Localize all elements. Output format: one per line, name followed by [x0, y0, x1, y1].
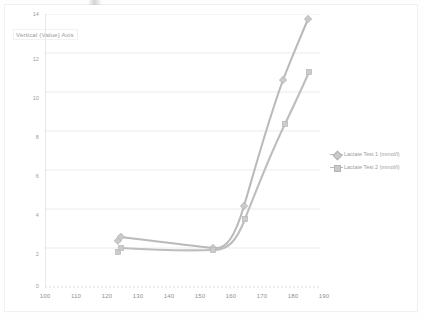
- y-tick-label: 8: [23, 134, 39, 140]
- y-tick-label: 10: [23, 95, 39, 101]
- legend-item-lactate-test-2[interactable]: Lactate Test 2 (mmol/l): [330, 161, 422, 174]
- plot-svg: [45, 14, 320, 288]
- legend-label: Lactate Test 2 (mmol/l): [344, 164, 400, 171]
- series-lactate-test-1: [114, 15, 312, 251]
- series-lactate-test-2: [115, 69, 311, 254]
- y-tick-label: 4: [23, 212, 39, 218]
- gridlines: [45, 14, 320, 248]
- y-tick-label: 0: [23, 283, 39, 289]
- scan-artifact: [88, 0, 102, 5]
- axis-lines: [45, 14, 320, 287]
- legend-item-lactate-test-1[interactable]: Lactate Test 1 (mmol/l): [330, 148, 422, 161]
- y-tick-label: 2: [23, 251, 39, 257]
- x-tick-label: 100: [33, 293, 57, 300]
- legend-marker-square-icon: [330, 164, 343, 171]
- legend-marker-diamond-icon: [330, 151, 343, 158]
- chart-legend: Lactate Test 1 (mmol/l) Lactate Test 2 (…: [330, 148, 422, 174]
- x-tick-label: 120: [95, 293, 119, 300]
- plot-area: [45, 14, 320, 288]
- x-tick-label: 190: [312, 293, 336, 300]
- x-tick-label: 170: [250, 293, 274, 300]
- x-tick-label: 110: [64, 293, 88, 300]
- chart-container: 14 12 10 8 6 4 2 0 Vertical (Value) Axis: [0, 0, 424, 318]
- y-tick-label: 14: [23, 11, 39, 17]
- x-tick-label: 160: [219, 293, 243, 300]
- x-tick-label: 150: [188, 293, 212, 300]
- x-tick-label: 180: [281, 293, 305, 300]
- x-tick-label: 140: [157, 293, 181, 300]
- y-tick-label: 6: [23, 173, 39, 179]
- legend-label: Lactate Test 1 (mmol/l): [344, 151, 400, 158]
- y-tick-label: 12: [23, 56, 39, 62]
- x-tick-label: 130: [126, 293, 150, 300]
